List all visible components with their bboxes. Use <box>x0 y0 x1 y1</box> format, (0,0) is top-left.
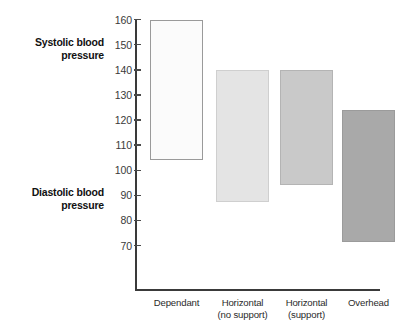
y-tick-label: 110 <box>98 139 132 151</box>
y-tick-mark <box>134 69 141 70</box>
y-tick-100: 100 <box>96 164 144 176</box>
range-bar-2 <box>216 70 269 202</box>
category-label-line1: Overhead <box>348 297 389 308</box>
category-label-line1: Horizontal <box>222 297 264 308</box>
range-bar-1 <box>150 20 203 161</box>
y-tick-mark <box>134 245 141 246</box>
y-tick-label: 120 <box>98 114 132 126</box>
y-tick-label: 140 <box>98 64 132 76</box>
y-tick-label: 80 <box>98 214 132 226</box>
y-tick-mark <box>134 44 141 45</box>
y-tick-mark <box>134 94 141 95</box>
range-bar-4 <box>342 110 395 242</box>
range-bar-3 <box>280 70 333 186</box>
y-tick-label: 160 <box>98 14 132 26</box>
y-tick-mark <box>134 220 141 221</box>
y-tick-160: 160 <box>96 14 144 26</box>
category-label-4: Overhead <box>330 297 399 309</box>
y-tick-70: 70 <box>96 240 144 252</box>
y-tick-mark <box>134 19 141 20</box>
y-tick-mark <box>134 119 141 120</box>
y-tick-150: 150 <box>96 39 144 51</box>
y-tick-label: 90 <box>98 189 132 201</box>
y-tick-mark <box>134 170 141 171</box>
y-tick-110: 110 <box>96 139 144 151</box>
category-label-line1: Horizontal <box>286 297 328 308</box>
y-tick-label: 130 <box>98 89 132 101</box>
y-tick-mark <box>134 144 141 145</box>
x-axis-line <box>135 289 380 291</box>
y-tick-label: 150 <box>98 39 132 51</box>
y-tick-90: 90 <box>96 189 144 201</box>
y-tick-80: 80 <box>96 214 144 226</box>
category-label-line1: Dependant <box>154 297 200 308</box>
y-tick-130: 130 <box>96 89 144 101</box>
category-label-line2: (support) <box>268 309 345 321</box>
y-tick-mark <box>134 195 141 196</box>
y-tick-label: 100 <box>98 164 132 176</box>
y-tick-label: 70 <box>98 240 132 252</box>
y-tick-140: 140 <box>96 64 144 76</box>
y-tick-120: 120 <box>96 114 144 126</box>
